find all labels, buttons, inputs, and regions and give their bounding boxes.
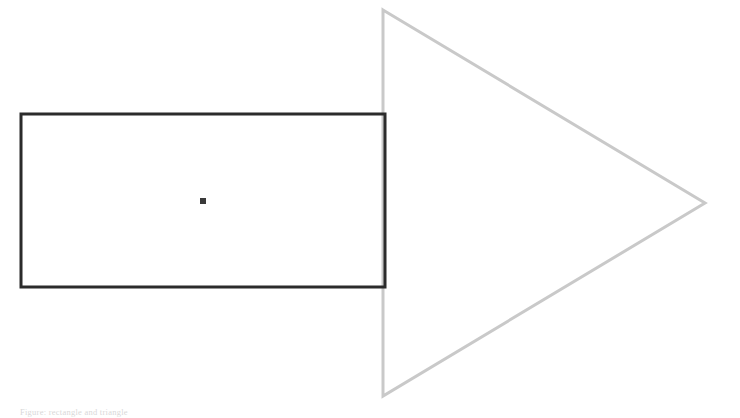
canvas-background [0, 0, 740, 418]
geometric-figure [0, 0, 740, 418]
figure-canvas: Figure: rectangle and triangle [0, 0, 740, 418]
center-point-marker-shape [200, 198, 206, 204]
